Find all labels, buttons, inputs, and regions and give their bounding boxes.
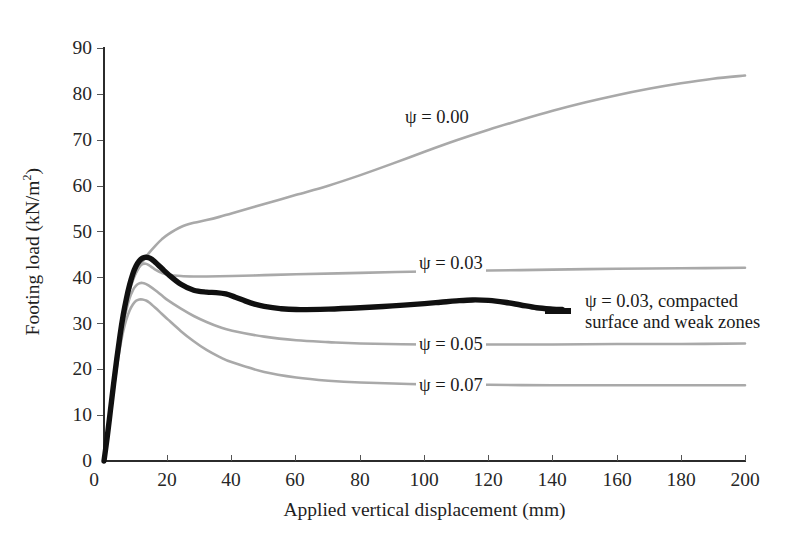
psi-003-compacted-label: ψ = 0.03, compacted surface and weak zon… — [582, 291, 790, 333]
curve-psi-003-compacted — [104, 257, 562, 461]
psi-000-label: ψ = 0.00 — [402, 107, 472, 128]
curves-layer — [0, 0, 790, 553]
psi-003-label: ψ = 0.03 — [416, 253, 486, 274]
chart-figure: 90 80 70 60 50 40 30 20 10 0 0 20 40 60 … — [0, 0, 790, 553]
black-curve-swatch — [545, 308, 571, 314]
psi-005-label: ψ = 0.05 — [416, 334, 486, 355]
psi-007-label: ψ = 0.07 — [416, 375, 486, 396]
